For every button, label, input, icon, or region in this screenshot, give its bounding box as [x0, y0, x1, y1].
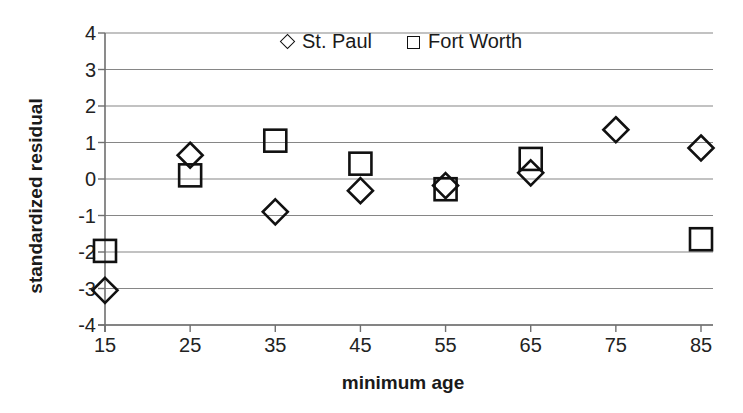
- x-tick-label: 25: [179, 334, 201, 356]
- axis-lines: [98, 33, 713, 332]
- data-point-square: [690, 228, 712, 250]
- chart-legend: St. Paul Fort Worth: [280, 30, 522, 52]
- series-markers-st-paul: [93, 117, 714, 303]
- series-markers-fort-worth: [94, 130, 712, 262]
- legend-entry-st-paul: St. Paul: [280, 30, 372, 52]
- x-tick-label: 85: [690, 334, 712, 356]
- data-point-diamond: [689, 135, 714, 160]
- x-tick-label: 55: [434, 334, 456, 356]
- x-axis-title: minimum age: [105, 372, 701, 394]
- x-tick-label: 45: [349, 334, 371, 356]
- legend-label-fort-worth: Fort Worth: [428, 30, 522, 52]
- x-tick-label: 35: [264, 334, 286, 356]
- gridlines: [105, 33, 713, 325]
- data-point-square: [349, 153, 371, 175]
- diamond-marker-icon: [280, 34, 295, 49]
- x-tick-label: 15: [94, 334, 116, 356]
- scatter-chart: standardized residual 43210-1-2-3-4 1525…: [0, 0, 743, 413]
- legend-label-st-paul: St. Paul: [302, 30, 372, 52]
- data-point-diamond: [518, 160, 543, 185]
- legend-entry-fort-worth: Fort Worth: [406, 30, 522, 52]
- square-marker-icon: [406, 34, 421, 49]
- data-point-diamond: [263, 199, 288, 224]
- data-point-square: [264, 130, 286, 152]
- data-point-diamond: [603, 117, 628, 142]
- data-point-diamond: [348, 178, 373, 203]
- x-axis-tick-labels: 1525354555657585: [0, 334, 743, 364]
- x-axis-ticks: [105, 325, 701, 332]
- x-tick-label: 75: [605, 334, 627, 356]
- x-tick-label: 65: [520, 334, 542, 356]
- data-point-diamond: [433, 173, 458, 198]
